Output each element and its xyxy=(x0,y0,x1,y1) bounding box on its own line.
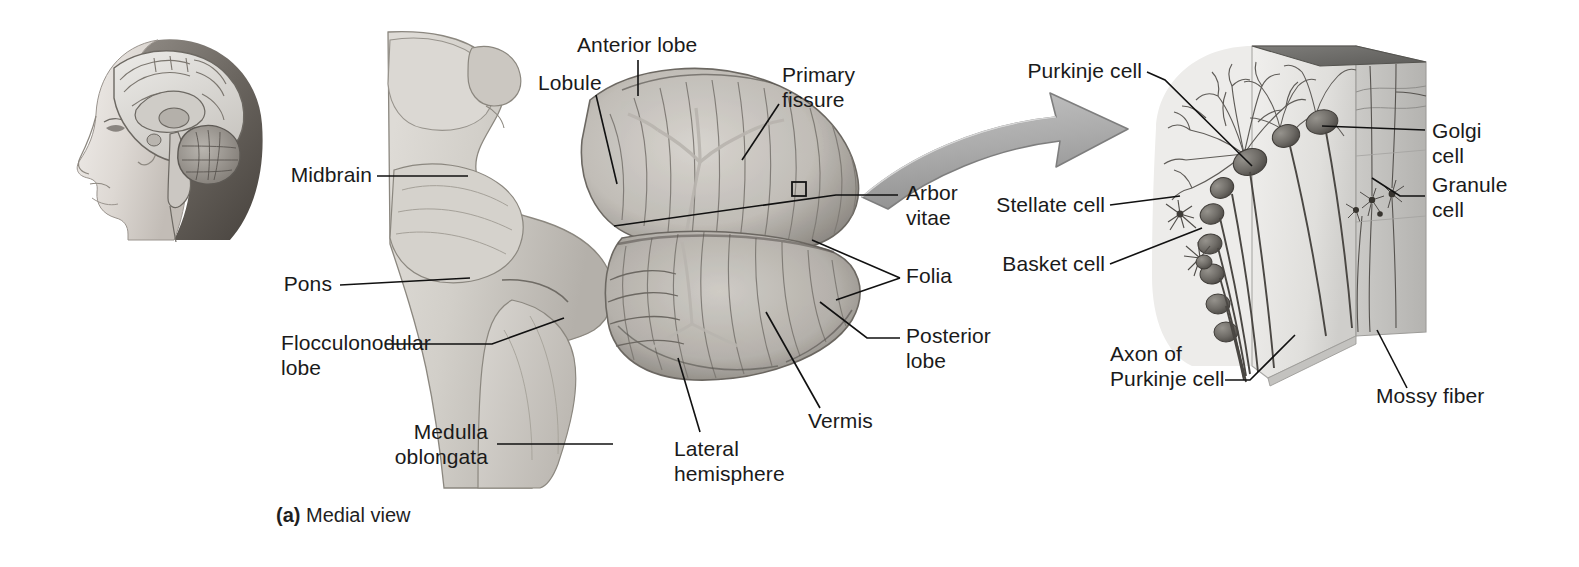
granule-soma xyxy=(1369,197,1375,203)
label-primary-fissure: Primary fissure xyxy=(782,62,855,112)
label-axon-of-purkinje-cell: Axon of Purkinje cell xyxy=(1110,341,1225,391)
label-medulla-oblongata: Medulla oblongata xyxy=(210,419,488,469)
label-mossy-fiber: Mossy fiber xyxy=(1376,383,1484,408)
basket-soma xyxy=(1196,255,1212,269)
granule-soma xyxy=(1389,191,1396,198)
caption-part-label: (a) xyxy=(276,504,300,526)
figure-caption: (a) Medial view xyxy=(276,504,411,527)
label-pons: Pons xyxy=(150,271,332,296)
label-anterior-lobe: Anterior lobe xyxy=(577,32,697,57)
label-lateral-hemisphere: Lateral hemisphere xyxy=(674,436,785,486)
label-purkinje-cell: Purkinje cell xyxy=(930,58,1142,83)
pituitary xyxy=(147,134,161,146)
label-flocculonodular-lobe: Flocculonodular lobe xyxy=(281,330,521,380)
figure-cerebellum-anatomy: Midbrain Pons Flocculonodular lobe Medul… xyxy=(0,0,1579,567)
colliculus xyxy=(468,46,521,106)
cerebellum-inferior xyxy=(605,231,860,380)
label-granule-cell: Granule cell xyxy=(1432,172,1507,222)
thalamus xyxy=(159,108,189,128)
stellate-soma xyxy=(1177,211,1184,218)
label-basket-cell: Basket cell xyxy=(930,251,1105,276)
label-midbrain: Midbrain xyxy=(150,162,372,187)
caption-text: Medial view xyxy=(300,504,410,526)
granule-soma xyxy=(1353,207,1359,213)
label-stellate-cell: Stellate cell xyxy=(930,192,1105,217)
label-posterior-lobe: Posterior lobe xyxy=(906,323,991,373)
label-lobule: Lobule xyxy=(538,70,602,95)
head-inset-illustration xyxy=(62,28,286,246)
label-vermis: Vermis xyxy=(808,408,873,433)
label-golgi-cell: Golgi cell xyxy=(1432,118,1482,168)
pons-region xyxy=(390,164,523,283)
granule-soma xyxy=(1377,211,1383,217)
